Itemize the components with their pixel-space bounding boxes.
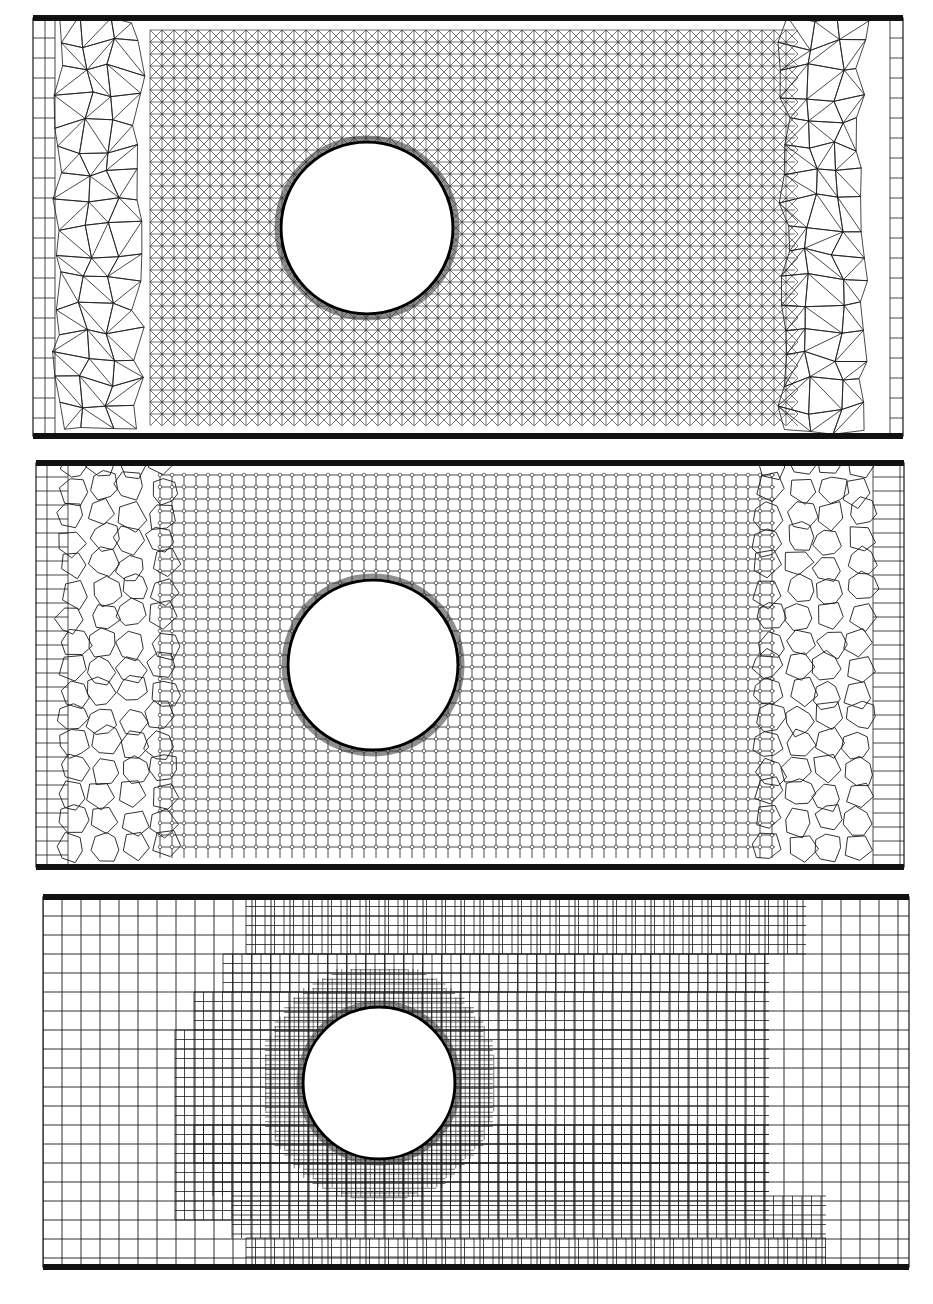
top-wall [43,894,909,900]
cartesian-mesh-panel [0,0,933,1290]
bottom-wall [43,1264,909,1270]
cylinder [303,1007,455,1159]
figure-caption-fragment [640,1290,930,1302]
cartesian-mesh-figure [0,0,933,1290]
